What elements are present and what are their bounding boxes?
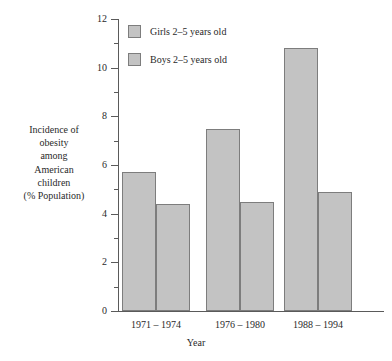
x-axis-label-1: 1976 – 1980 — [200, 319, 280, 330]
y-tick-label-8: 8 — [83, 111, 107, 121]
bar-boys-2 — [318, 192, 352, 311]
y-tick-label-0: 0 — [83, 306, 107, 316]
legend-label-girls: Girls 2–5 years old — [150, 26, 226, 37]
legend-swatch-girls — [128, 25, 141, 38]
x-axis-line — [118, 311, 384, 312]
y-tick-major-0 — [111, 311, 119, 312]
x-axis-title: Year — [0, 337, 392, 348]
legend-label-boys: Boys 2–5 years old — [150, 54, 227, 65]
legend-item-boys: Boys 2–5 years old — [128, 52, 227, 66]
legend-swatch-boys — [128, 53, 141, 66]
chart-legend: Girls 2–5 years old Boys 2–5 years old — [128, 24, 227, 80]
bar-chart: Incidence of obesity among American chil… — [0, 0, 392, 361]
y-axis-title-line-2: obesity — [4, 136, 104, 149]
y-axis-title-line-1: Incidence of — [4, 123, 104, 136]
y-tick-label-4: 4 — [83, 209, 107, 219]
y-tick-label-6: 6 — [83, 160, 107, 170]
y-tick-label-12: 12 — [83, 14, 107, 24]
y-axis-title-line-5: children — [4, 176, 104, 189]
bar-girls-2 — [284, 48, 318, 311]
bar-boys-1 — [240, 202, 274, 312]
y-tick-label-2: 2 — [83, 257, 107, 267]
x-axis-label-2: 1988 – 1994 — [278, 319, 358, 330]
y-tick-label-10: 10 — [83, 63, 107, 73]
x-axis-label-0: 1971 – 1974 — [116, 319, 196, 330]
bar-boys-0 — [156, 204, 190, 311]
legend-item-girls: Girls 2–5 years old — [128, 24, 227, 38]
bar-girls-1 — [206, 129, 240, 312]
y-axis-title-line-6: (% Population) — [4, 189, 104, 202]
bar-girls-0 — [122, 172, 156, 311]
